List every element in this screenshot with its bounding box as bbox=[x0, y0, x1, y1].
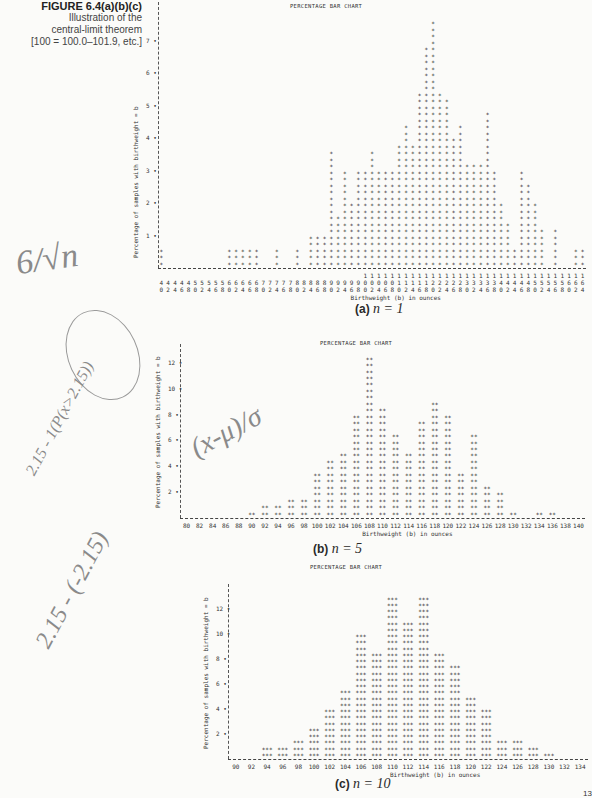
x-axis-label: Birthweight (b) in ounces bbox=[362, 530, 452, 537]
x-tick-label: 64 bbox=[240, 272, 247, 293]
bar: **************** bbox=[471, 164, 478, 268]
bar: ************************** bbox=[443, 99, 450, 268]
bar: ******* bbox=[504, 223, 511, 269]
y-tick-label: 8 • bbox=[216, 655, 227, 662]
bar: ***** bbox=[321, 236, 328, 269]
x-tick-label: 52 bbox=[199, 272, 206, 293]
x-axis bbox=[158, 268, 586, 269]
x-tick-label: 50 bbox=[192, 272, 199, 293]
bar: *************** bbox=[306, 728, 322, 759]
y-tick-label: 6 • bbox=[168, 436, 179, 443]
handwritten-note-difference: 2.15 - (-2.15) bbox=[30, 527, 114, 653]
bar: ****************************** bbox=[463, 697, 479, 760]
x-tick-label: 46 bbox=[178, 272, 185, 293]
bar-symbol: * bbox=[160, 262, 164, 269]
x-tick-label: 124 bbox=[443, 272, 450, 293]
panel-letter: (b) bbox=[313, 542, 328, 556]
x-tick-label: 54 bbox=[206, 272, 213, 293]
bar: **** bbox=[258, 505, 271, 518]
chart-title: PERCENTAGE BAR CHART bbox=[320, 340, 392, 346]
y-axis-label: Percentage of samples with birthweight =… bbox=[154, 356, 161, 508]
x-tick-label: 152 bbox=[538, 272, 545, 293]
bar: ******************************** bbox=[350, 415, 363, 518]
bar-symbol: * bbox=[506, 262, 510, 269]
bar-symbol: * bbox=[255, 262, 259, 269]
bar-symbol: * bbox=[357, 262, 361, 269]
bar: ** bbox=[507, 512, 520, 518]
x-tick-label: 150 bbox=[532, 272, 539, 293]
x-tick-label: 142 bbox=[504, 272, 511, 293]
bar: ********* bbox=[291, 740, 307, 759]
x-axis-label: Birthweight (b) in ounces bbox=[390, 771, 480, 778]
bar-symbol: *** bbox=[324, 753, 335, 759]
x-tick-label: 130 bbox=[464, 272, 471, 293]
bar-symbol: ** bbox=[405, 512, 412, 518]
x-tick-label: 134 bbox=[477, 272, 484, 293]
x-tick-label: 146 bbox=[518, 272, 525, 293]
x-tick-label: 140 bbox=[498, 272, 505, 293]
figure-label: FIGURE 6.4(a)(b)(c) bbox=[0, 0, 142, 12]
bar: ***** bbox=[307, 236, 314, 269]
bar-symbol: * bbox=[350, 262, 354, 269]
figure-caption: FIGURE 6.4(a)(b)(c) Illustration of the … bbox=[0, 0, 142, 48]
x-tick-label: 88 bbox=[321, 272, 328, 293]
bar-symbol: ** bbox=[418, 512, 425, 518]
x-tick-label: 96 bbox=[348, 272, 355, 293]
bar: ****** bbox=[525, 747, 541, 760]
bar: ****************************************… bbox=[353, 634, 369, 759]
bar-symbol: * bbox=[520, 262, 524, 269]
panel-n: n = 5 bbox=[332, 541, 362, 556]
bar-symbol: * bbox=[248, 262, 252, 269]
bar: ************************ bbox=[484, 112, 491, 268]
bar: ************** bbox=[311, 473, 324, 518]
bar-symbol: *** bbox=[528, 753, 539, 759]
bar: ******************** bbox=[402, 453, 415, 518]
x-tick-label: 60 bbox=[226, 272, 233, 293]
y-tick-label: 5 • bbox=[146, 102, 157, 109]
bar-symbol: * bbox=[554, 262, 558, 269]
bar-symbol: ** bbox=[549, 512, 556, 518]
y-tick-label: 6 • bbox=[216, 680, 227, 687]
bar-symbol: ** bbox=[392, 512, 399, 518]
bar: ****************** bbox=[369, 151, 376, 268]
y-tick-label: 2 • bbox=[168, 488, 179, 495]
x-tick-label: 70 bbox=[260, 272, 267, 293]
bar-symbol: * bbox=[418, 262, 422, 269]
x-tick-label: 162 bbox=[572, 272, 579, 293]
bar-symbol: * bbox=[323, 262, 327, 269]
caption-line-2: central-limit theorem bbox=[0, 24, 142, 36]
x-tick-label: 58 bbox=[219, 272, 226, 293]
bar: ******** bbox=[335, 216, 342, 268]
bar-symbol: *** bbox=[309, 753, 320, 759]
bar: ****** bbox=[285, 499, 298, 518]
bar: ************************************ bbox=[428, 402, 441, 518]
bar-symbol: * bbox=[295, 262, 299, 269]
bar: *************** bbox=[382, 171, 389, 269]
y-tick-label: 6 • bbox=[146, 69, 157, 76]
bar-symbol: ** bbox=[300, 512, 307, 518]
bar: ****************************************… bbox=[431, 653, 447, 759]
bar-symbol: * bbox=[458, 262, 462, 269]
bar-symbol: *** bbox=[387, 753, 398, 759]
bar: ********************** bbox=[403, 125, 410, 268]
x-tick-label: 110 bbox=[396, 272, 403, 293]
bar-symbol: * bbox=[241, 262, 245, 269]
x-tick-label: 92 bbox=[335, 272, 342, 293]
x-tick-label: 102 bbox=[369, 272, 376, 293]
bar: ******************** bbox=[337, 453, 350, 518]
y-tick-label: 8 • bbox=[168, 411, 179, 418]
bar-symbol: * bbox=[404, 262, 408, 269]
bar: ************************ bbox=[322, 709, 338, 759]
x-tick-label: 84 bbox=[307, 272, 314, 293]
bar: ************** bbox=[454, 473, 467, 518]
bar-symbol: ** bbox=[314, 512, 321, 518]
x-tick-label: 132 bbox=[471, 272, 478, 293]
y-tick-label: 4 • bbox=[168, 462, 179, 469]
bar-symbol: * bbox=[533, 262, 537, 269]
x-tick-label: 42 bbox=[165, 272, 172, 293]
bar: *** bbox=[541, 753, 557, 759]
bar: ****************************************… bbox=[416, 597, 432, 760]
bar: *** bbox=[226, 249, 233, 269]
bar-symbol: *** bbox=[262, 753, 273, 759]
y-tick-label: 4 • bbox=[216, 705, 227, 712]
